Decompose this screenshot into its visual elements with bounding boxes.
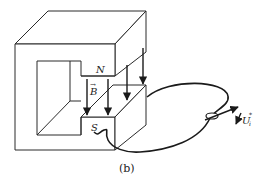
magnet-induction-diagram: N S B → U i * (b): [0, 0, 265, 188]
voltage-subscript: i: [249, 120, 251, 127]
voltage-label: U i *: [242, 111, 252, 127]
figure-caption: (b): [119, 162, 135, 175]
north-pole-label: N: [95, 64, 106, 75]
south-pole-label: S: [91, 122, 98, 133]
vector-mark: →: [90, 81, 96, 89]
voltage-superscript: *: [249, 111, 252, 118]
voltage-arrow-small-icon: [236, 113, 241, 124]
field-label: B →: [89, 81, 97, 97]
